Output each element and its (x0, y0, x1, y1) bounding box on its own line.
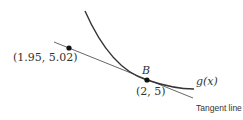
point-b-label: (2, 5) (136, 85, 166, 98)
tangent-diagram: (1.95, 5.02) B (2, 5) g(x) Tangent line (0, 0, 243, 120)
curve-g (85, 11, 194, 89)
point-b-name: B (141, 64, 150, 77)
point-secant (66, 45, 71, 50)
point-b (144, 77, 149, 82)
curve-label: g(x) (196, 75, 218, 88)
point-secant-label: (1.95, 5.02) (13, 51, 78, 64)
tangent-line-label: Tangent line (196, 103, 242, 113)
